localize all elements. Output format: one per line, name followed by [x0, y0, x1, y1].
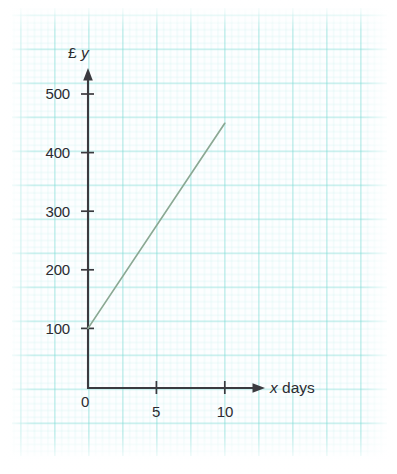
x-axis-variable: x — [270, 379, 278, 396]
y-axis-currency-symbol: £ — [68, 44, 77, 61]
y-tick-label-200: 200 — [30, 262, 70, 277]
x-tick-label-10: 10 — [210, 404, 240, 419]
x-axis-unit: days — [282, 379, 315, 396]
y-tick-label-500: 500 — [30, 86, 70, 101]
x-tick-label-5: 5 — [145, 404, 167, 419]
y-tick-label-300: 300 — [30, 204, 70, 219]
y-tick-label-100: 100 — [30, 321, 70, 336]
data-series-line — [88, 123, 225, 328]
y-axis-title: £ y — [68, 45, 89, 61]
graph-figure: 100 200 300 400 500 0 5 10 £ y x days — [0, 0, 397, 474]
y-tick-label-400: 400 — [30, 145, 70, 160]
x-axis — [87, 383, 265, 393]
chart-plot-area — [0, 0, 397, 474]
x-axis-title: x days — [270, 380, 315, 396]
y-axis-variable: y — [81, 44, 89, 61]
x-tick-label-0: 0 — [74, 394, 96, 409]
y-axis — [83, 68, 93, 389]
